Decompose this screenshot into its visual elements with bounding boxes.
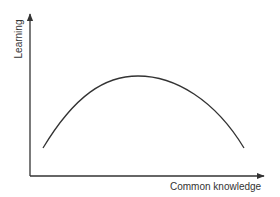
inverted-u-chart — [0, 0, 280, 197]
learning-curve — [43, 76, 244, 148]
x-axis-label: Common knowledge — [170, 181, 261, 192]
y-axis-label: Learning — [13, 20, 24, 59]
